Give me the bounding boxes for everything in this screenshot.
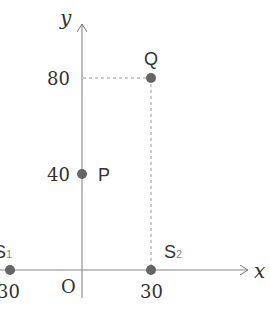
point-s2	[146, 265, 156, 275]
tick-label-x-30: 30	[140, 281, 163, 302]
point-label-s1: S1	[0, 242, 12, 262]
tick-label-y-80: 80	[47, 68, 70, 89]
coordinate-diagram: y x O 80 40 30 -30 Q P S1 S2	[0, 0, 270, 323]
point-q	[146, 73, 156, 83]
x-axis-label: x	[254, 259, 265, 283]
point-p	[77, 169, 87, 179]
y-axis-label: y	[59, 6, 72, 30]
tick-label-x-neg30: -30	[0, 281, 20, 302]
tick-label-y-40: 40	[47, 164, 70, 185]
point-s1	[5, 265, 15, 275]
point-label-q: Q	[144, 49, 158, 69]
point-label-s2: S2	[164, 242, 182, 262]
point-label-p: P	[98, 165, 110, 185]
origin-label: O	[61, 276, 76, 297]
